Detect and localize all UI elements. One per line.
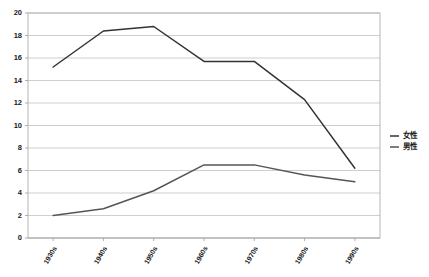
y-axis-tick-label: 10 [14,121,22,130]
y-axis-tick-label: 2 [18,211,22,220]
x-axis-tick-label: 1940s [92,245,108,265]
chart-legend: 女性男性 [390,130,418,151]
x-axis-tick-label: 1950s [143,245,159,265]
x-axis-tick-label: 1980s [294,245,310,265]
y-axis-tick-label: 16 [14,53,22,62]
y-axis-tick-label: 4 [18,188,23,197]
x-axis-tick-labels: 1930s1940s1950s1960s1970s1980s1990s [42,245,360,265]
x-axis-tick-label: 1990s [344,245,360,265]
y-axis-tick-labels: 02468101214161820 [14,8,23,242]
x-axis-tick-label: 1970s [243,245,259,265]
x-axis-tick-label: 1960s [193,245,209,265]
legend-label: 女性 [403,130,418,140]
y-axis-tick-label: 6 [18,166,22,175]
y-axis-tick-label: 8 [18,143,22,152]
legend-label: 男性 [403,141,418,151]
y-axis-tick-label: 20 [14,8,22,17]
y-axis-tick-label: 0 [18,233,22,242]
x-axis-tick-label: 1930s [42,245,58,265]
line-chart: 02468101214161820 1930s1940s1950s1960s19… [0,0,429,277]
y-axis-tick-label: 18 [14,31,22,40]
y-axis-tick-label: 12 [14,98,22,107]
chart-canvas: 02468101214161820 1930s1940s1950s1960s19… [0,0,429,277]
y-axis-tick-label: 14 [14,76,23,85]
